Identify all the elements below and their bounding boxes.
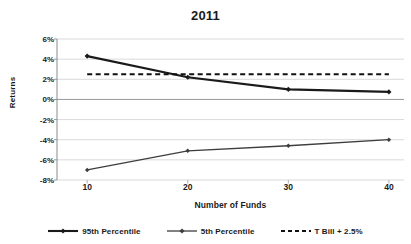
legend-swatch-icon bbox=[48, 226, 78, 236]
legend-item[interactable]: 95th Percentile bbox=[48, 226, 140, 236]
chart-container: 2011 Returns 6%4%2%0%-2%-4%-6%-8% 102030… bbox=[0, 0, 411, 244]
legend-label: 5th Percentile bbox=[201, 227, 255, 236]
legend-label: 95th Percentile bbox=[82, 227, 140, 236]
legend-item[interactable]: 5th Percentile bbox=[167, 226, 255, 236]
data-point-marker bbox=[85, 54, 90, 59]
data-point-marker bbox=[286, 144, 290, 148]
chart-legend: 95th Percentile5th PercentileT Bill + 2.… bbox=[0, 226, 411, 236]
x-axis-label: Number of Funds bbox=[57, 200, 404, 210]
data-point-marker bbox=[386, 89, 391, 94]
x-axis-tick-label: 30 bbox=[268, 182, 308, 192]
legend-label: T Bill + 2.5% bbox=[315, 227, 363, 236]
series-line bbox=[87, 140, 389, 170]
data-point-marker bbox=[85, 168, 89, 172]
data-series-layer bbox=[85, 54, 392, 173]
x-axis-tick-label: 20 bbox=[168, 182, 208, 192]
legend-swatch-icon bbox=[167, 226, 197, 236]
data-point-marker bbox=[186, 149, 190, 153]
data-point-marker bbox=[387, 138, 391, 142]
data-point-marker bbox=[286, 87, 291, 92]
x-axis-tick-label: 10 bbox=[67, 182, 107, 192]
legend-item[interactable]: T Bill + 2.5% bbox=[281, 226, 363, 236]
x-axis-tick-label: 40 bbox=[369, 182, 409, 192]
legend-swatch-icon bbox=[281, 226, 311, 236]
